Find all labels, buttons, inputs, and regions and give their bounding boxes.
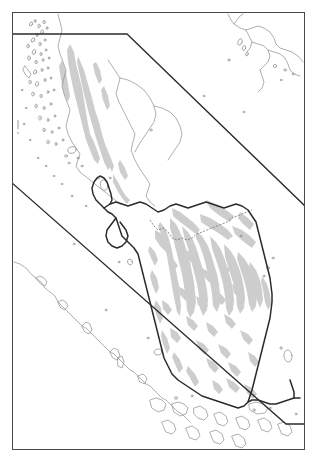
map-canvas [0,0,317,462]
map-figure [0,0,317,462]
